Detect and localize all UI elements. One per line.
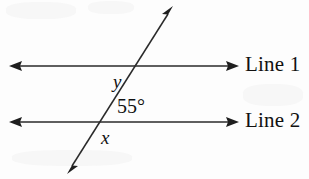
angle-label-55-degrees: 55° [117,96,145,116]
geometry-figure: Line 1 Line 2 y 55° x [0,0,309,179]
angle-label-y: y [113,72,121,91]
line-1-label: Line 1 [245,54,300,75]
transversal-bottom-arrowhead [67,160,78,174]
transversal-top-arrowhead [162,6,173,20]
line-2-group [9,117,239,127]
line-2-label: Line 2 [245,110,300,131]
diagram-canvas [0,0,309,179]
angle-label-x: x [101,128,109,147]
line-1-group [9,61,239,71]
